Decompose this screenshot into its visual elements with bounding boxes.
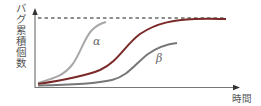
alpha-curve	[38, 22, 106, 83]
x-axis-arrow-icon	[233, 85, 240, 90]
x-axis-label: 時間	[232, 91, 252, 105]
bug-growth-chart: バグ累積個数 時間 α β	[0, 0, 261, 106]
alpha-label: α	[93, 35, 100, 48]
middle-curve	[38, 19, 226, 84]
y-axis-arrow-icon	[32, 8, 37, 15]
chart-canvas	[0, 0, 261, 106]
beta-label: β	[156, 52, 162, 65]
y-axis-label: バグ累積個数	[12, 3, 25, 69]
